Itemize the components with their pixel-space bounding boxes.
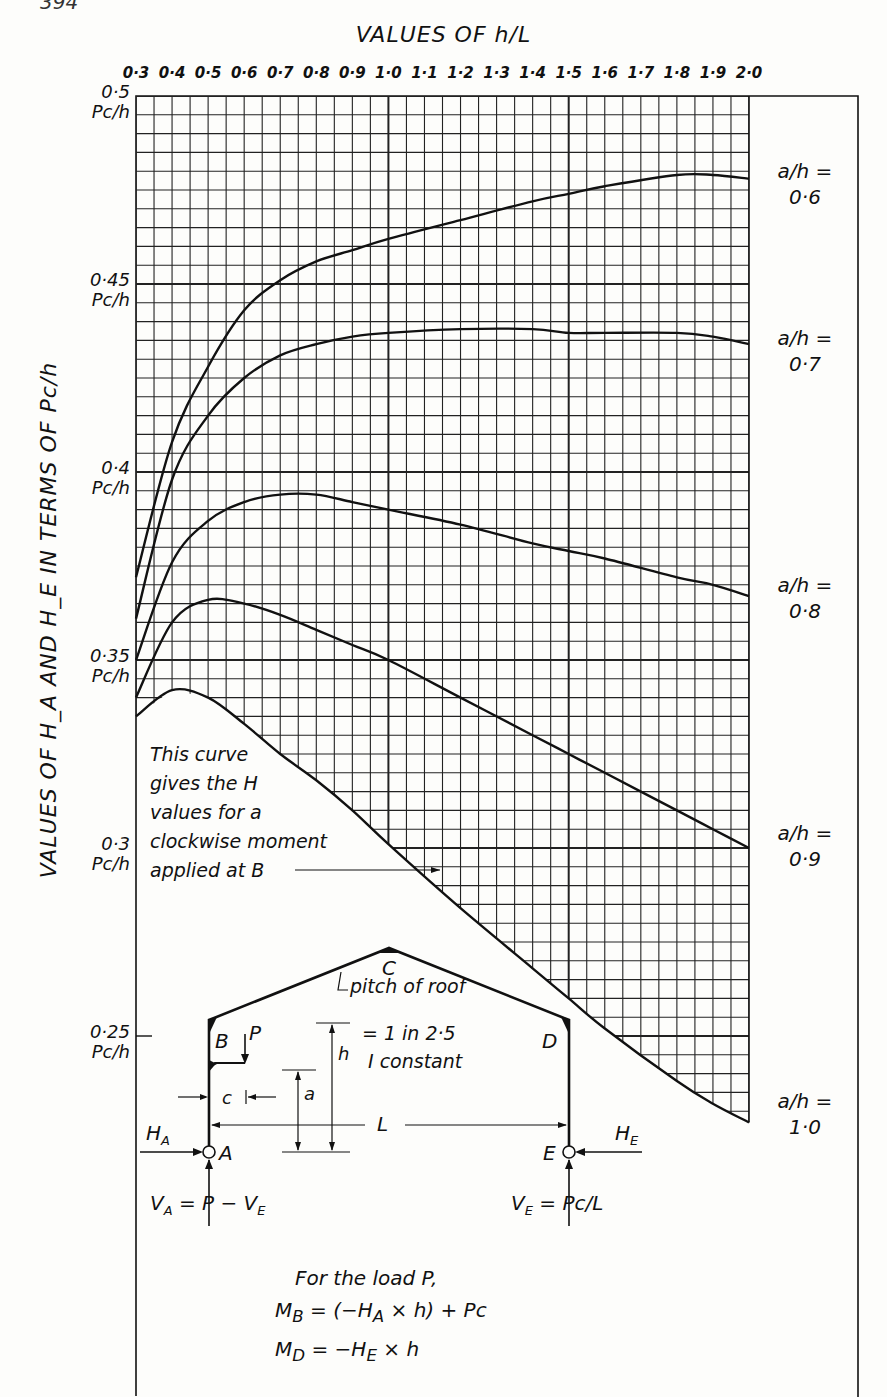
formula-intro: For the load P, bbox=[275, 1262, 487, 1294]
label-he: HE bbox=[615, 1121, 639, 1148]
label-l-dim: L bbox=[377, 1112, 388, 1136]
curve-label: a/h =0·6 bbox=[770, 158, 840, 210]
formula-block: For the load P, MB = (−HA × h) + Pc MD =… bbox=[275, 1262, 487, 1372]
label-h-dim: h bbox=[338, 1043, 349, 1064]
curve-label: a/h =1·0 bbox=[770, 1088, 840, 1140]
label-d-node: D bbox=[542, 1029, 557, 1053]
note-line: values for a bbox=[150, 798, 327, 827]
label-ha: HA bbox=[146, 1121, 170, 1148]
curve-note: This curve gives the H values for a cloc… bbox=[150, 740, 327, 885]
formula-md: MD = −HE × h bbox=[275, 1333, 487, 1372]
label-c-dim: c bbox=[222, 1087, 232, 1108]
note-line: clockwise moment bbox=[150, 827, 327, 856]
curve-label: a/h =0·8 bbox=[770, 572, 840, 624]
note-line: gives the H bbox=[150, 769, 327, 798]
note-line: applied at B bbox=[150, 856, 327, 885]
label-b-node: B bbox=[215, 1029, 229, 1053]
pitch-ratio: = 1 in 2·5 bbox=[362, 1022, 456, 1044]
curve-label: a/h =0·7 bbox=[770, 325, 840, 377]
ve-label: VE = Pc/L bbox=[511, 1191, 603, 1218]
curve-label: a/h =0·9 bbox=[770, 820, 840, 872]
label-p-load: P bbox=[249, 1021, 262, 1045]
pitch-text: pitch of roof bbox=[349, 975, 469, 997]
portal-frame-diagram: CBPDAEcahLHAHEpitch of roof= 1 in 2·5I c… bbox=[140, 948, 642, 1226]
label-a-dim: a bbox=[304, 1083, 315, 1104]
inertia-text: I constant bbox=[368, 1050, 464, 1072]
note-line: This curve bbox=[150, 740, 327, 769]
va-label: VA = P − VE bbox=[150, 1191, 266, 1218]
formula-mb: MB = (−HA × h) + Pc bbox=[275, 1294, 487, 1333]
label-e-node: E bbox=[543, 1141, 556, 1165]
chart-canvas: CBPDAEcahLHAHEpitch of roof= 1 in 2·5I c… bbox=[0, 0, 887, 1397]
label-a-node: A bbox=[217, 1141, 233, 1165]
